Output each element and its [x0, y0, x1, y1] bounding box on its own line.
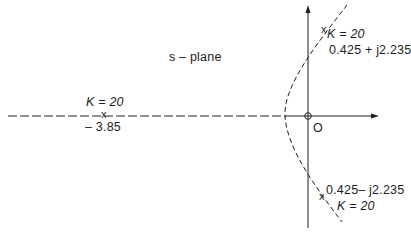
s-plane-label: s – plane [169, 51, 222, 64]
imaginary-axis-arrow-icon [306, 5, 311, 13]
lower-pole-value-label: 0.425– j2.235 [326, 184, 404, 197]
upper-pole-marker: x [321, 24, 327, 35]
real-pole-gain-label: K = 20 [86, 96, 124, 109]
upper-pole-value-label: 0.425 + j2.235 [329, 44, 411, 57]
real-axis-arrow-icon [371, 114, 379, 119]
real-pole-value-label: – 3.85 [85, 121, 121, 134]
real-pole-marker: x [101, 109, 107, 120]
lower-pole-marker: x [319, 191, 325, 202]
origin-label: O [313, 122, 323, 135]
lower-pole-gain-label: K = 20 [337, 200, 375, 213]
upper-pole-gain-label: K = 20 [327, 28, 365, 41]
